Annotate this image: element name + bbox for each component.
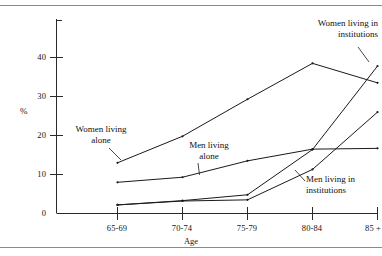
- annotation-line-1: Men living in: [306, 174, 382, 185]
- data-point: [181, 176, 183, 178]
- annotation-women-living-alone: Women living alone: [64, 124, 138, 146]
- annotation-line-1: Women living in: [286, 18, 378, 29]
- leader-line-women-institutions: [358, 47, 369, 62]
- y-axis-label: %: [20, 106, 28, 116]
- leader-line-men-institutions: [295, 170, 305, 181]
- x-tick-label-75-79: 75-79: [225, 223, 269, 233]
- annotation-men-living-alone: Men living alone: [176, 140, 242, 162]
- data-point: [311, 62, 313, 64]
- data-point: [311, 168, 313, 170]
- x-tick-label-70-74: 70-74: [160, 223, 204, 233]
- data-point: [376, 111, 378, 113]
- y-tick-label-40: 40: [20, 52, 46, 62]
- data-point: [181, 200, 183, 202]
- y-tick-label-0: 0: [20, 208, 46, 218]
- data-point: [246, 194, 248, 196]
- data-point: [116, 204, 118, 206]
- x-tick-label-80-84: 80-84: [290, 223, 334, 233]
- x-tick-label-65-69: 65-69: [95, 223, 139, 233]
- data-point: [376, 65, 378, 67]
- y-tick-label-30: 30: [20, 91, 46, 101]
- annotation-line-1: Men living: [176, 140, 242, 151]
- annotation-line-1: Women living: [64, 124, 138, 135]
- data-point: [246, 98, 248, 100]
- data-point: [116, 181, 118, 183]
- figure-chart: 40 30 20 10 0 % 65-69 70-74 75-79 80-84 …: [0, 0, 382, 256]
- annotation-line-2: institutions: [306, 185, 382, 196]
- y-tick-label-10: 10: [20, 169, 46, 179]
- annotation-men-living-in-institutions: Men living in institutions: [306, 174, 382, 196]
- annotation-women-living-in-institutions: Women living in institutions: [286, 18, 378, 40]
- data-point: [376, 82, 378, 84]
- series-line-women-living-alone: [118, 63, 378, 162]
- annotation-line-2: alone: [176, 151, 242, 162]
- x-axis-label: Age: [0, 236, 382, 246]
- annotation-line-2: institutions: [286, 29, 378, 40]
- data-point: [246, 199, 248, 201]
- data-point: [246, 160, 248, 162]
- annotation-line-2: alone: [64, 135, 138, 146]
- leader-line-women-alone: [109, 148, 121, 160]
- x-tick-label-85-plus: 85 +: [351, 223, 382, 233]
- data-point: [376, 147, 378, 149]
- data-point: [311, 148, 313, 150]
- data-point: [116, 162, 118, 164]
- data-point: [181, 135, 183, 137]
- y-tick-label-20: 20: [20, 130, 46, 140]
